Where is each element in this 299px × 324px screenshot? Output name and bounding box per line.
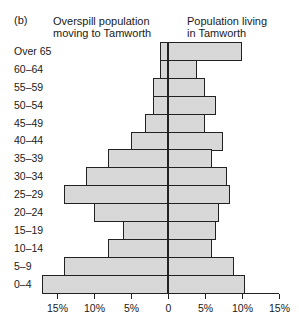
age-group-label: 60–64 (14, 63, 43, 75)
age-group-label: 0–4 (14, 278, 32, 290)
age-group-label: 50–54 (14, 99, 43, 111)
age-group-label: 40–44 (14, 134, 43, 146)
x-axis-tick-label: 15% (47, 302, 68, 314)
x-axis-tick-label: 5% (124, 302, 139, 314)
bar-tamworth (168, 257, 235, 276)
bar-tamworth (168, 96, 216, 115)
x-axis-tick (131, 294, 132, 299)
age-group-label: 55–59 (14, 81, 43, 93)
bar-overspill (131, 132, 169, 151)
bar-overspill (64, 185, 168, 204)
x-axis-tick (57, 294, 58, 299)
x-axis-tick (279, 294, 280, 299)
bar-overspill (42, 275, 168, 294)
bar-overspill (64, 257, 168, 276)
age-group-label: 5–9 (14, 260, 32, 272)
x-axis-tick-label: 10% (84, 302, 105, 314)
x-axis-tick (242, 294, 243, 299)
age-group-label: 45–49 (14, 117, 43, 129)
bar-tamworth (168, 239, 212, 258)
age-group-label: 25–29 (14, 188, 43, 200)
panel-label: (b) (14, 14, 27, 26)
bar-tamworth (168, 185, 231, 204)
x-axis-tick-label: 0 (166, 302, 172, 314)
bar-tamworth (168, 149, 212, 168)
bar-tamworth (168, 132, 224, 151)
left-header-line2: moving to Tamworth (53, 27, 151, 39)
bar-overspill (145, 114, 168, 133)
bar-overspill (108, 149, 168, 168)
bar-tamworth (168, 167, 227, 186)
x-axis-tick-label: 5% (198, 302, 213, 314)
bar-tamworth (168, 60, 198, 79)
bar-tamworth (168, 114, 205, 133)
bar-tamworth (168, 221, 216, 240)
right-series-header: Population living in Tamworth (187, 15, 267, 39)
age-group-label: 20–24 (14, 206, 43, 218)
bar-tamworth (168, 42, 242, 61)
bar-overspill (108, 239, 168, 258)
right-header-line2: in Tamworth (187, 27, 267, 39)
bar-overspill (153, 96, 168, 115)
bar-overspill (94, 203, 169, 222)
bar-overspill (153, 78, 168, 97)
age-group-label: 30–34 (14, 170, 43, 182)
zero-axis-line (168, 42, 169, 298)
bar-tamworth (168, 203, 220, 222)
bar-tamworth (168, 78, 205, 97)
age-group-label: 35–39 (14, 152, 43, 164)
x-axis-tick-label: 15% (269, 302, 290, 314)
x-axis-tick (168, 294, 169, 299)
bar-tamworth (168, 275, 246, 294)
x-axis-tick (205, 294, 206, 299)
x-axis-tick (94, 294, 95, 299)
age-group-label: Over 65 (14, 45, 51, 57)
age-group-label: 15–19 (14, 224, 43, 236)
right-header-line1: Population living (187, 15, 267, 27)
bar-overspill (123, 221, 168, 240)
age-group-label: 10–14 (14, 242, 43, 254)
left-series-header: Overspill population moving to Tamworth (53, 15, 151, 39)
bar-overspill (86, 167, 168, 186)
left-header-line1: Overspill population (53, 15, 151, 27)
x-axis-tick-label: 10% (232, 302, 253, 314)
